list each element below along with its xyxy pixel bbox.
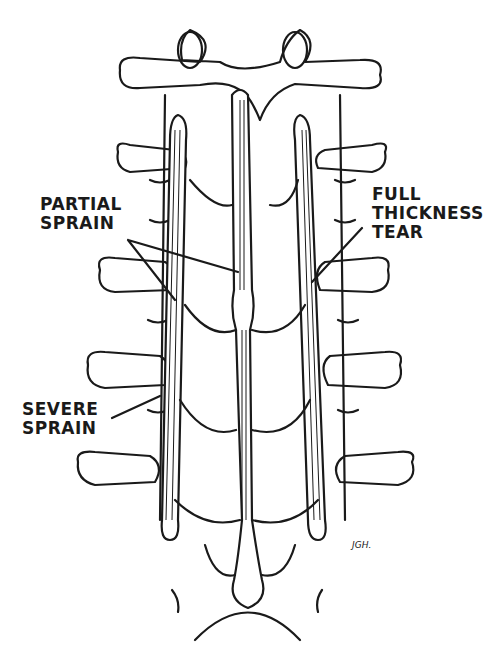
facet-ligament-right: [294, 115, 326, 540]
spine-illustration: [0, 0, 503, 664]
label-full-thickness-tear: FULL THICKNESS TEAR: [372, 185, 484, 242]
vertebra-top: [120, 30, 381, 120]
transverse-process-r3: [317, 258, 389, 293]
transverse-process-r2: [316, 144, 386, 172]
label-severe-sprain: SEVERE SPRAIN: [22, 400, 98, 438]
transverse-process-l5: [78, 452, 159, 485]
transverse-process-l4: [88, 352, 169, 388]
label-line: THICKNESS: [372, 204, 484, 223]
label-line: PARTIAL: [40, 195, 122, 214]
label-line: SPRAIN: [40, 214, 122, 233]
label-line: TEAR: [372, 223, 484, 242]
leader-severe-sprain: [112, 396, 160, 418]
label-line: SEVERE: [22, 400, 98, 419]
transverse-process-r5: [336, 452, 413, 485]
label-line: FULL: [372, 185, 484, 204]
artist-signature: JGH.: [352, 540, 371, 550]
label-line: SPRAIN: [22, 419, 98, 438]
supraspinous-ligament: [232, 90, 263, 608]
transverse-process-r4: [323, 352, 401, 388]
label-partial-sprain: PARTIAL SPRAIN: [40, 195, 122, 233]
